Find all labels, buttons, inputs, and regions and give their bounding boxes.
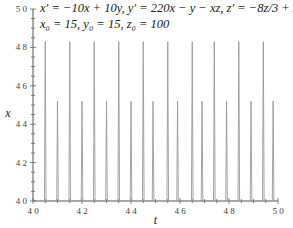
tall-spike [69, 42, 71, 201]
tall-spike [238, 42, 240, 201]
chart-plot: 4 04 24 44 64 85 04 04 24 44 64 85 0tx [0, 0, 293, 228]
x-tick-label: 4 8 [223, 206, 235, 216]
x-axis-label: t [154, 213, 158, 227]
y-tick-label: 4 6 [16, 81, 28, 91]
tall-spike [263, 42, 265, 201]
short-spike [226, 101, 228, 201]
y-axis-label: x [4, 106, 11, 120]
equation-line-2: x₀ = 15, y₀ = 15, z₀ = 100 [40, 17, 169, 32]
tall-spike [93, 42, 95, 201]
tall-spike [118, 42, 120, 201]
x-tick-label: 4 6 [174, 206, 186, 216]
y-tick-label: 4 4 [16, 119, 28, 129]
short-spike [272, 101, 274, 201]
x-tick-label: 4 4 [125, 206, 137, 216]
x-tick-label: 4 2 [76, 206, 87, 216]
short-spike [130, 101, 132, 201]
tall-spike [191, 42, 193, 201]
short-spike [250, 101, 252, 201]
short-spike [106, 101, 108, 201]
y-tick-label: 5 0 [16, 4, 28, 14]
short-spike [201, 101, 203, 201]
tall-spike [142, 42, 144, 201]
y-tick-label: 4 8 [16, 42, 28, 52]
short-spike [81, 101, 83, 201]
y-tick-label: 4 0 [16, 196, 28, 206]
tall-spike [44, 42, 46, 201]
tall-spike [167, 42, 169, 201]
short-spike [152, 101, 154, 201]
short-spike [57, 101, 59, 201]
short-spike [177, 101, 179, 201]
x-tick-label: 5 0 [272, 206, 284, 216]
equation-line-1: x′ = −10x + 10y, y′ = 220x − y − xz, z′ … [40, 1, 293, 16]
y-tick-label: 4 2 [16, 158, 27, 168]
tall-spike [214, 42, 216, 201]
x-tick-label: 4 0 [27, 206, 39, 216]
